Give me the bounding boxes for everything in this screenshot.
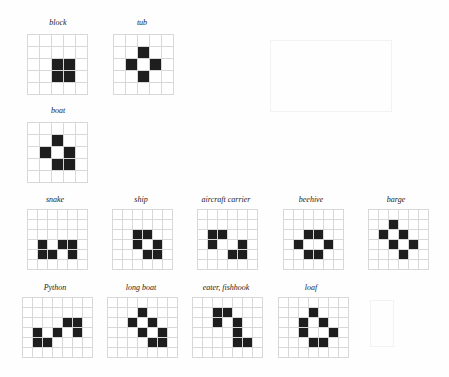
dead-cell — [108, 298, 117, 307]
dead-cell — [389, 260, 398, 269]
alive-cell — [52, 71, 63, 82]
dead-cell — [133, 260, 142, 269]
alive-cell — [243, 338, 252, 347]
alive-cell — [304, 250, 313, 259]
alive-cell — [64, 71, 75, 82]
cell-grid — [283, 209, 344, 270]
cell-grid — [27, 209, 88, 270]
dead-cell — [243, 348, 252, 357]
dead-cell — [52, 35, 63, 46]
dead-cell — [329, 338, 338, 347]
dead-cell — [289, 348, 298, 357]
dead-cell — [334, 250, 343, 259]
dead-cell — [43, 328, 52, 337]
dead-cell — [203, 348, 212, 357]
dead-cell — [52, 171, 63, 182]
dead-cell — [28, 147, 39, 158]
pattern-label: tub — [137, 18, 147, 27]
dead-cell — [40, 35, 51, 46]
pattern-label: aircraft carrier — [202, 195, 251, 204]
alive-cell — [48, 250, 57, 259]
dead-cell — [208, 250, 217, 259]
alive-cell — [126, 59, 137, 70]
alive-cell — [218, 230, 227, 239]
dead-cell — [399, 220, 408, 229]
dead-cell — [389, 250, 398, 259]
dead-cell — [279, 348, 288, 357]
dead-cell — [138, 35, 149, 46]
dead-cell — [168, 348, 177, 357]
alive-cell — [314, 230, 323, 239]
dead-cell — [158, 348, 167, 357]
dead-cell — [279, 318, 288, 327]
alive-cell — [138, 308, 147, 317]
dead-cell — [38, 210, 47, 219]
dead-cell — [53, 338, 62, 347]
dead-cell — [153, 210, 162, 219]
dead-cell — [150, 35, 161, 46]
dead-cell — [28, 159, 39, 170]
dead-cell — [23, 328, 32, 337]
dead-cell — [228, 210, 237, 219]
dead-cell — [314, 220, 323, 229]
alive-cell — [223, 308, 232, 317]
cell-grid — [278, 297, 349, 358]
dead-cell — [143, 240, 152, 249]
dead-cell — [218, 260, 227, 269]
alive-cell — [228, 250, 237, 259]
dead-cell — [284, 260, 293, 269]
dead-cell — [113, 250, 122, 259]
dead-cell — [198, 230, 207, 239]
dead-cell — [43, 298, 52, 307]
dead-cell — [64, 135, 75, 146]
dead-cell — [123, 260, 132, 269]
dead-cell — [279, 328, 288, 337]
dead-cell — [78, 250, 87, 259]
dead-cell — [419, 230, 428, 239]
dead-cell — [324, 220, 333, 229]
dead-cell — [299, 308, 308, 317]
cell-grid — [112, 209, 173, 270]
dead-cell — [114, 47, 125, 58]
dead-cell — [218, 250, 227, 259]
background-sketch — [370, 300, 394, 347]
dead-cell — [118, 318, 127, 327]
alive-cell — [299, 318, 308, 327]
alive-cell — [153, 240, 162, 249]
dead-cell — [409, 220, 418, 229]
alive-cell — [299, 328, 308, 337]
dead-cell — [73, 338, 82, 347]
pattern-label: eater, fishhook — [203, 283, 250, 292]
dead-cell — [148, 298, 157, 307]
dead-cell — [123, 250, 132, 259]
dead-cell — [163, 230, 172, 239]
dead-cell — [38, 230, 47, 239]
dead-cell — [113, 230, 122, 239]
dead-cell — [218, 210, 227, 219]
dead-cell — [203, 318, 212, 327]
alive-cell — [40, 147, 51, 158]
alive-cell — [379, 230, 388, 239]
dead-cell — [304, 240, 313, 249]
dead-cell — [153, 230, 162, 239]
dead-cell — [133, 220, 142, 229]
dead-cell — [118, 328, 127, 337]
alive-cell — [294, 240, 303, 249]
dead-cell — [28, 59, 39, 70]
dead-cell — [150, 71, 161, 82]
dead-cell — [64, 171, 75, 182]
alive-cell — [148, 318, 157, 327]
dead-cell — [52, 147, 63, 158]
dead-cell — [253, 348, 262, 357]
alive-cell — [213, 318, 222, 327]
dead-cell — [294, 220, 303, 229]
alive-cell — [52, 159, 63, 170]
dead-cell — [143, 220, 152, 229]
dead-cell — [33, 348, 42, 357]
alive-cell — [399, 250, 408, 259]
alive-cell — [138, 47, 149, 58]
alive-cell — [52, 59, 63, 70]
alive-cell — [58, 240, 67, 249]
dead-cell — [63, 348, 72, 357]
dead-cell — [339, 348, 348, 357]
